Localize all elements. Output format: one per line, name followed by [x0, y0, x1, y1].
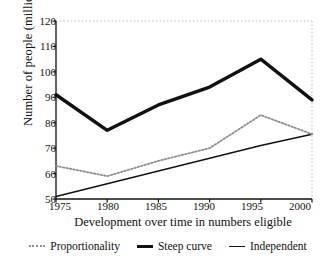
x-tick-label: 1995: [241, 201, 263, 212]
series-line-independent: [56, 134, 312, 196]
x-tick-label: 1975: [49, 201, 71, 212]
legend-label: Proportionality: [50, 240, 120, 252]
y-tick-label: 90: [30, 92, 56, 103]
series-line-proportionality: [56, 115, 312, 176]
legend-swatch-thin-line-icon: [229, 246, 245, 247]
y-tick-label: 60: [30, 168, 56, 179]
legend-item-proportionality: Proportionality: [29, 240, 120, 252]
legend-swatch-thick-line-icon: [137, 245, 153, 248]
line-chart: Number of people (million) 120 110 100 9…: [0, 0, 336, 270]
y-tick-label: 110: [30, 41, 56, 52]
legend-item-independent: Independent: [229, 240, 307, 252]
x-tick-label: 2000: [289, 201, 311, 212]
chart-legend: Proportionality Steep curve Independent: [0, 240, 336, 252]
data-series-layer: [56, 59, 312, 196]
legend-swatch-dotted-line-icon: [29, 245, 45, 247]
x-tick-label: 1980: [97, 201, 119, 212]
y-tick-label: 120: [30, 16, 56, 27]
x-tick-label: 1990: [193, 201, 215, 212]
plot-frame: [56, 21, 312, 199]
x-tick-label: 1985: [145, 201, 167, 212]
y-tick-label: 80: [30, 117, 56, 128]
legend-label: Steep curve: [158, 240, 212, 252]
legend-label: Independent: [250, 240, 307, 252]
legend-item-steep-curve: Steep curve: [137, 240, 212, 252]
y-tick-label: 70: [30, 143, 56, 154]
x-axis-title: Development over time in numbers eligibl…: [38, 215, 328, 230]
y-tick-label: 100: [30, 66, 56, 77]
